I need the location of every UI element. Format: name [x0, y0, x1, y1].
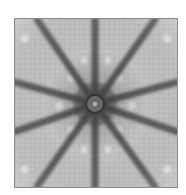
star-pattern-image — [14, 18, 178, 188]
star-pattern-graphic — [15, 19, 177, 187]
